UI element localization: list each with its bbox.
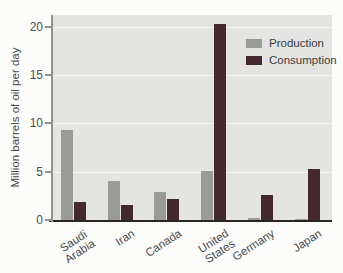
ytick-label-0: 0 bbox=[15, 213, 43, 227]
consumption-swatch-icon bbox=[246, 56, 262, 65]
xtick-label-germany: Germany bbox=[231, 227, 277, 263]
legend-item-production: Production bbox=[246, 37, 337, 49]
xtick-label-japan: Japan bbox=[291, 227, 324, 254]
bar-consumption-canada bbox=[167, 199, 179, 220]
bar-production-iran bbox=[108, 181, 120, 220]
ytick-mark-10 bbox=[45, 122, 51, 124]
xtick-label-united-states: United States bbox=[196, 227, 237, 265]
bar-production-saudi-arabia bbox=[61, 130, 73, 220]
xtick-label-iran: Iran bbox=[114, 227, 137, 248]
oil-production-consumption-chart: Million barrels of oil per day Productio… bbox=[0, 0, 343, 273]
gridline-y-10 bbox=[51, 123, 332, 124]
legend-item-consumption: Consumption bbox=[246, 54, 337, 66]
xtick-label-saudi-arabia: Saudi Arabia bbox=[56, 227, 97, 265]
legend-label-production: Production bbox=[269, 37, 324, 49]
ytick-mark-20 bbox=[45, 26, 51, 28]
y-axis-line bbox=[51, 15, 53, 222]
x-axis-line bbox=[49, 220, 332, 222]
bar-consumption-japan bbox=[308, 169, 320, 220]
ytick-label-5: 5 bbox=[15, 165, 43, 179]
ytick-label-20: 20 bbox=[15, 20, 43, 34]
bar-production-united-states bbox=[201, 171, 213, 220]
production-swatch-icon bbox=[246, 39, 262, 48]
legend-label-consumption: Consumption bbox=[269, 54, 337, 66]
ytick-mark-0 bbox=[45, 219, 51, 221]
ytick-label-15: 15 bbox=[15, 68, 43, 82]
xtick-label-canada: Canada bbox=[143, 227, 183, 259]
gridline-y-15 bbox=[51, 75, 332, 76]
legend: Production Consumption bbox=[246, 37, 337, 66]
bar-consumption-iran bbox=[121, 205, 133, 220]
bar-consumption-germany bbox=[261, 195, 273, 220]
bar-consumption-saudi-arabia bbox=[74, 202, 86, 220]
bar-production-canada bbox=[154, 192, 166, 220]
gridline-y-5 bbox=[51, 172, 332, 173]
ytick-label-10: 10 bbox=[15, 116, 43, 130]
bar-consumption-united-states bbox=[214, 24, 226, 220]
gridline-y-20 bbox=[51, 27, 332, 28]
ytick-mark-5 bbox=[45, 171, 51, 173]
ytick-mark-15 bbox=[45, 74, 51, 76]
